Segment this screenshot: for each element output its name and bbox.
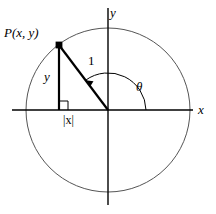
point-p-label: P(x, y) [4,26,39,39]
y-axis-label: y [110,6,116,19]
x-axis-label: x [198,103,204,116]
adjacent-side-label: |x| [63,114,74,126]
point-p-marker [56,42,63,49]
right-angle-marker [59,101,68,110]
trigonometry-figure: P(x, y) y x 1 y |x| θ [0,0,216,214]
radius-segment [59,45,108,110]
radius-length-label: 1 [88,54,95,67]
opposite-side-label: y [44,70,50,83]
angle-theta-label: θ [136,80,142,93]
